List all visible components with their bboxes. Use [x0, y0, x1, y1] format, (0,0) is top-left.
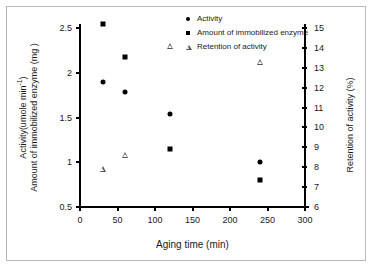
figure-container: Activity Amount of immobilized enzyme Re… [0, 0, 374, 269]
y-left-axis-tick [76, 161, 81, 163]
x-axis-tick-label: 200 [222, 216, 237, 225]
data-point [258, 178, 263, 183]
x-axis-tick [154, 206, 156, 211]
y-left-title-line1-tail: ) [18, 76, 28, 79]
x-axis-tick [192, 206, 194, 211]
y-right-axis-tick [302, 67, 307, 69]
y-left-axis-tick [76, 27, 81, 29]
y-right-axis-tick-label: 8 [314, 163, 319, 172]
y-right-axis-tick [302, 206, 307, 208]
y-left-axis-tick [76, 206, 81, 208]
y-left-axis-tick-label: 0.5 [59, 203, 72, 212]
legend-label-activity: Activity [196, 15, 222, 23]
y-left-title-line2: Amount of immobilized enzyme [29, 67, 39, 192]
x-axis-title: Aging time (min) [80, 239, 305, 250]
data-point [258, 160, 263, 165]
data-point [100, 166, 106, 172]
y-right-axis-tick-label: 7 [314, 183, 319, 192]
y-left-axis-tick-label: 2 [67, 69, 72, 78]
y-right-axis-tick-label: 12 [314, 84, 324, 93]
data-point [123, 54, 128, 59]
data-point [257, 59, 263, 65]
y-left-axis-tick-label: 1.5 [59, 114, 72, 123]
x-axis-tick [229, 206, 231, 211]
y-left-title-line1: Activity(umole min [18, 86, 28, 159]
y-right-axis-tick [302, 87, 307, 89]
y-left-title-superscript: -1 [16, 79, 23, 85]
y-right-axis-tick [302, 146, 307, 148]
y-right-axis-tick-label: 11 [314, 104, 323, 113]
data-point [168, 146, 173, 151]
y-right-axis-tick-label: 15 [314, 24, 324, 33]
y-right-axis-tick [302, 166, 307, 168]
x-axis-tick [267, 206, 269, 211]
x-axis-tick-label: 150 [185, 216, 200, 225]
y-right-axis-tick-label: 9 [314, 143, 319, 152]
x-axis-tick-label: 100 [147, 216, 162, 225]
y-left-axis-tick [76, 72, 81, 74]
y-right-axis-title: Retention of activity (%) [344, 40, 358, 210]
y-right-axis-tick [302, 107, 307, 109]
data-point [167, 43, 173, 49]
x-axis-tick [117, 206, 119, 211]
y-left-axis-tick [76, 117, 81, 119]
data-point [122, 152, 128, 158]
y-right-axis-tick-label: 14 [314, 44, 324, 53]
y-left-axis-tick-label: 2.5 [59, 24, 72, 33]
legend-item-activity: Activity [186, 12, 308, 26]
data-point [100, 21, 105, 26]
x-axis-tick-label: 250 [260, 216, 275, 225]
y-left-axis-tick-label: 1 [67, 158, 72, 167]
data-point [168, 111, 173, 116]
y-right-axis-tick [302, 186, 307, 188]
y-left-axis-title: Activity(umole min-1) Amount of immobili… [14, 28, 50, 207]
y-right-axis-tick-label: 10 [314, 123, 324, 132]
filled-circle-marker-icon [186, 17, 196, 21]
y-right-axis-tick [302, 47, 307, 49]
plot-area: 0501001502002503000.511.522.567891011121… [80, 28, 305, 207]
data-point [100, 79, 105, 84]
right-axis-spine [304, 24, 306, 211]
y-left-title-line3: (mg ) [29, 43, 39, 64]
x-axis-tick-label: 300 [297, 216, 312, 225]
y-right-axis-tick [302, 27, 307, 29]
data-point [123, 89, 128, 94]
y-right-axis-tick [302, 126, 307, 128]
y-right-axis-tick-label: 13 [314, 64, 324, 73]
y-right-axis-tick-label: 6 [314, 203, 319, 212]
x-axis-tick-label: 50 [112, 216, 122, 225]
x-axis-tick-label: 0 [77, 216, 82, 225]
